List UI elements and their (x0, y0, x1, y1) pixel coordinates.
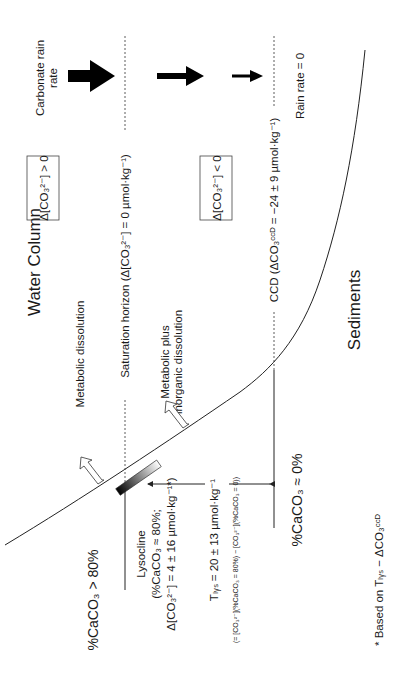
inorganic-dissolution-label: inorganic dissolution (172, 310, 184, 414)
medium-rain-arrow-icon (157, 66, 204, 86)
tlys-definition-label: (= [CO₃²⁻](%CaCO₃ = 80%) − [CO₃²⁻](%CaCO… (232, 477, 240, 643)
rain-rate-zero: Rain rate = 0 (294, 53, 306, 119)
positive-delta-label: Δ[CO₃²⁻] > 0 (38, 155, 50, 220)
sediment-surface-curve (5, 50, 365, 545)
ccd-label: CCD (ΔCO₃ᶜᶜᴰ = −24 ± 9 µmol·kg⁻¹) (268, 118, 280, 303)
small-rain-arrow-icon (232, 70, 263, 82)
caco3-high-label: %CaCO₃ > 80% (85, 549, 101, 650)
rain-rate-label: Carbonate rain (34, 40, 46, 116)
lysocline-delta-label: Δ[CO₃²⁻] = 4 ± 16 µmol·kg⁻¹*) (165, 477, 177, 630)
lysocline-caco3-label: (%CaCO₃ ≈ 80%; (150, 509, 162, 599)
lysocline-label: Lysocline (135, 530, 147, 578)
saturation-horizon-label: Saturation horizon (Δ[CO₃²⁻] = 0 µmol·kg… (119, 154, 131, 378)
caco3-zero-label: %CaCO₃ ≈ 0% (289, 454, 305, 547)
water-column-title: Water Column (25, 208, 44, 316)
metabolic-dissolution-arrow-icon (80, 457, 104, 484)
rain-rate-label-2: rate (47, 68, 59, 88)
carbonate-lysocline-diagram: Water Column Carbonate rain rate Rain ra… (0, 0, 396, 686)
large-rain-arrow-icon (68, 60, 115, 92)
metabolic-dissolution-label: Metabolic dissolution (74, 301, 86, 408)
negative-delta-label: Δ[CO₃²⁻] < 0 (211, 155, 223, 220)
sediments-title: Sediments (345, 270, 364, 350)
footnote: * Based on Tₗᵧₛ − ΔCO₃ᶜᶜᴰ (373, 514, 386, 646)
metabolic-plus-label: Metabolic plus (159, 325, 171, 399)
lysocline-gradient-bar (116, 460, 162, 495)
tlys-label: Tₗᵧₛ = 20 ± 13 µmol·kg⁻¹ (208, 479, 221, 601)
